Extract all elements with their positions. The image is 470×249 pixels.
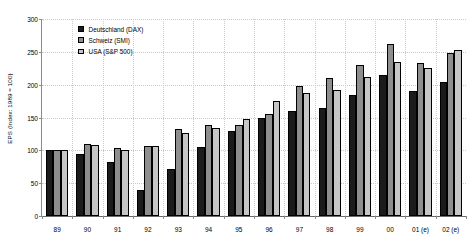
legend-swatch-icon [78, 26, 84, 32]
x-tick-label: 89 [42, 220, 72, 236]
x-tick-mark [224, 216, 225, 219]
bar-group [254, 19, 284, 216]
bar [121, 150, 128, 216]
bar [235, 125, 242, 216]
bar-group [375, 19, 405, 216]
bar-group [193, 19, 223, 216]
bar-group [42, 19, 72, 216]
bar-group [315, 19, 345, 216]
x-tick-label: 02 (e) [436, 220, 466, 236]
y-axis-label-text: EPS (Index: 1989 = 100) [6, 73, 13, 143]
x-tick-mark [436, 216, 437, 219]
bar [349, 95, 356, 216]
x-tick-mark [405, 216, 406, 219]
bar-group [405, 19, 435, 216]
bar [114, 148, 121, 216]
bar [205, 125, 212, 216]
bar [356, 65, 363, 216]
bar [326, 78, 333, 216]
x-tick-label: 01 (e) [405, 220, 435, 236]
bar-group [345, 19, 375, 216]
y-tick-label: 250 [27, 48, 42, 55]
x-tick-label: 97 [284, 220, 314, 236]
x-tick-label: 96 [254, 220, 284, 236]
bar [144, 146, 151, 216]
x-tick-label: 98 [315, 220, 345, 236]
bar [61, 150, 68, 216]
bar [303, 93, 310, 216]
y-tick-label: 200 [27, 81, 42, 88]
bar [228, 131, 235, 216]
bar [333, 90, 340, 216]
bar [319, 108, 326, 216]
legend-label: USA (S&P 500) [89, 48, 133, 55]
bar [76, 154, 83, 216]
x-tick-label: 91 [103, 220, 133, 236]
bar [424, 68, 431, 216]
bar [394, 62, 401, 216]
legend-item: Schweiz (SMI) [78, 36, 143, 44]
x-tick-mark [345, 216, 346, 219]
legend-item: USA (S&P 500) [78, 47, 143, 55]
bar [167, 169, 174, 216]
x-axis-tick-labels: 89909192939495969798990001 (e)02 (e) [42, 220, 466, 236]
x-tick-label: 00 [375, 220, 405, 236]
bar [288, 111, 295, 216]
x-tick-mark [315, 216, 316, 219]
bar [137, 190, 144, 216]
x-tick-mark [103, 216, 104, 219]
legend-swatch-icon [78, 37, 84, 43]
bar [273, 101, 280, 216]
y-tick-label: 150 [27, 114, 42, 121]
bar [84, 144, 91, 216]
bar [212, 128, 219, 216]
x-tick-mark [254, 216, 255, 219]
bar [152, 146, 159, 216]
eps-index-bar-chart: EPS (Index: 1989 = 100) 0501001502002503… [0, 0, 470, 249]
x-tick-mark [284, 216, 285, 219]
y-axis-label: EPS (Index: 1989 = 100) [2, 0, 16, 216]
bar [379, 75, 386, 216]
bar [447, 53, 454, 216]
bar [454, 50, 461, 216]
legend-label: Schweiz (SMI) [89, 37, 130, 44]
bar [258, 118, 265, 217]
legend-swatch-icon [78, 49, 84, 55]
x-tick-mark [42, 216, 43, 219]
bar [243, 119, 250, 216]
bar [197, 147, 204, 216]
x-tick-mark [193, 216, 194, 219]
x-tick-mark [466, 216, 467, 219]
x-tick-mark [72, 216, 73, 219]
bar [440, 82, 447, 216]
legend-label: Deutschland (DAX) [89, 26, 144, 33]
bar [409, 91, 416, 216]
y-tick-label: 100 [27, 147, 42, 154]
x-tick-label: 95 [224, 220, 254, 236]
bar [107, 162, 114, 217]
bar-group [163, 19, 193, 216]
bar [417, 63, 424, 216]
x-tick-mark [375, 216, 376, 219]
bar-group [284, 19, 314, 216]
bar [46, 150, 53, 216]
y-tick-label: 300 [27, 16, 42, 23]
bar [364, 77, 371, 216]
chart-legend: Deutschland (DAX)Schweiz (SMI)USA (S&P 5… [78, 25, 143, 55]
y-tick-label: 50 [31, 180, 42, 187]
x-tick-mark [163, 216, 164, 219]
x-tick-label: 92 [133, 220, 163, 236]
bar-group [224, 19, 254, 216]
bar [182, 133, 189, 216]
x-tick-mark [133, 216, 134, 219]
x-tick-label: 94 [193, 220, 223, 236]
bar [91, 145, 98, 216]
bar [387, 44, 394, 216]
bar [175, 129, 182, 216]
bar-group [436, 19, 466, 216]
x-tick-label: 99 [345, 220, 375, 236]
x-tick-label: 93 [163, 220, 193, 236]
legend-item: Deutschland (DAX) [78, 25, 143, 33]
x-tick-label: 90 [72, 220, 102, 236]
bar [296, 86, 303, 216]
